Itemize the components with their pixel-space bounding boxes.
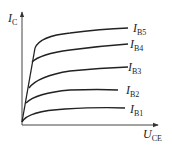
curve-label-ib1: IB1	[130, 103, 143, 118]
curve-label-ib2: IB2	[126, 84, 139, 99]
curve-ib2	[26, 90, 118, 104]
saturation-boundary	[22, 48, 35, 122]
curve-label-ib5: IB5	[133, 22, 146, 37]
curve-ib3	[29, 67, 128, 88]
curve-label-ib3: IB3	[128, 61, 141, 76]
curve-label-ib4: IB4	[130, 38, 143, 53]
curve-ib4	[32, 44, 128, 62]
curve-ib1	[22, 108, 125, 122]
y-axis-label: IC	[8, 12, 17, 27]
x-axis-label: UCE	[143, 128, 162, 143]
